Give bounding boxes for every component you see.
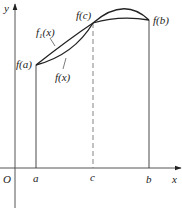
origin-label: O: [3, 173, 11, 185]
point-b-label: b: [146, 173, 152, 185]
point-a-label: a: [33, 172, 39, 184]
x-axis-label: x: [171, 173, 177, 185]
leader-f1: [50, 38, 55, 46]
fa-label: f(a): [16, 58, 32, 71]
curve-f1-chord: [93, 18, 149, 23]
fc-label: f(c): [76, 9, 92, 22]
point-c-label: c: [90, 171, 95, 183]
f-curve-label: f(x): [55, 71, 71, 84]
mean-value-diagram: y x O a c b f(a) f(c) f(b) f1(x) f(x): [0, 0, 182, 208]
leader-f: [63, 58, 66, 69]
f1-curve-label: f1(x): [36, 26, 55, 40]
fb-label: f(b): [153, 14, 169, 27]
y-axis-label: y: [3, 2, 9, 14]
